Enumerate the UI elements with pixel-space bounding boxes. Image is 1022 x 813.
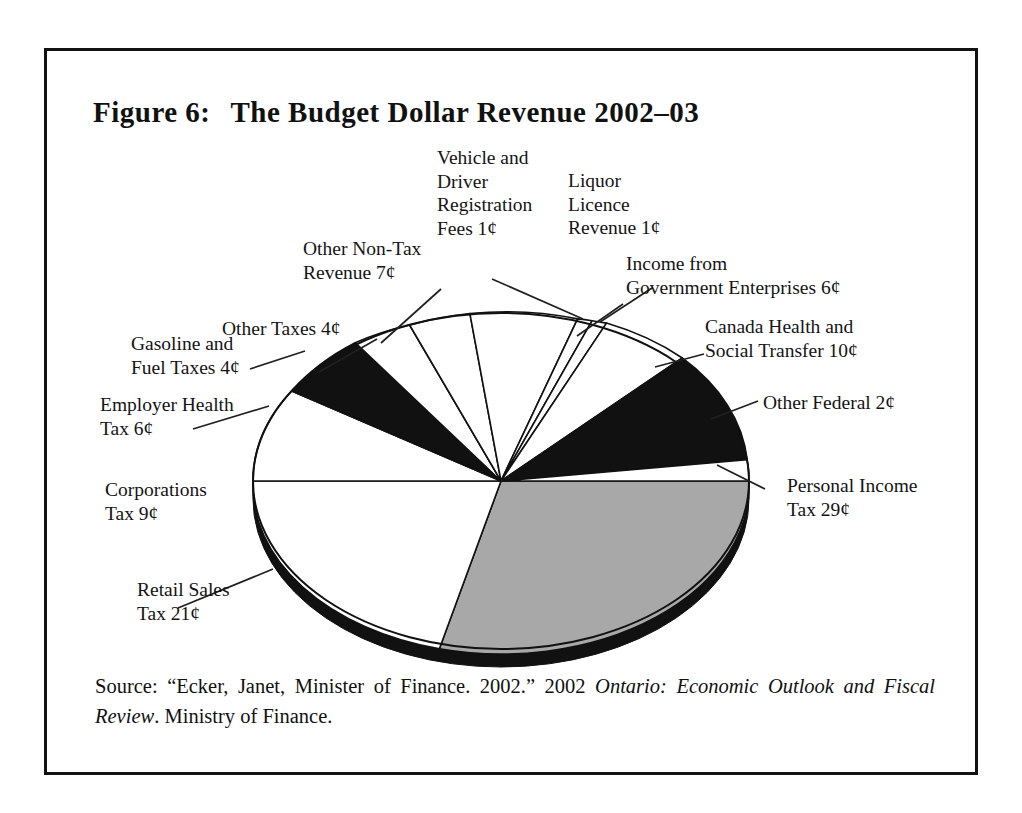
label-vehicle-driver-registration-fees: Vehicle and Driver Registration Fees 1¢ <box>437 146 532 240</box>
label-employer-health-tax: Employer Health Tax 6¢ <box>100 393 234 440</box>
label-other-taxes: Other Taxes 4¢ <box>222 317 341 341</box>
label-corporations-tax: Corporations Tax 9¢ <box>105 478 207 525</box>
source-prefix: Source: “Ecker, Janet, Minister of Finan… <box>95 675 595 697</box>
label-retail-sales-tax: Retail Sales Tax 21¢ <box>137 578 230 625</box>
pie-slices <box>253 312 749 654</box>
label-canada-health-social-transfer: Canada Health and Social Transfer 10¢ <box>705 315 858 362</box>
figure-frame: Figure 6:The Budget Dollar Revenue 2002–… <box>44 48 978 775</box>
label-personal-income-tax: Personal Income Tax 29¢ <box>787 474 918 521</box>
label-gasoline-and-fuel-taxes: Gasoline and Fuel Taxes 4¢ <box>131 332 240 379</box>
pie-chart: Vehicle and Driver Registration Fees 1¢ … <box>47 51 981 661</box>
source-suffix: . Ministry of Finance. <box>154 705 332 727</box>
label-other-non-tax-revenue: Other Non-Tax Revenue 7¢ <box>303 237 421 284</box>
label-income-from-government-enterprises: Income from Government Enterprises 6¢ <box>626 252 840 299</box>
source-note: Source: “Ecker, Janet, Minister of Finan… <box>95 671 935 731</box>
label-liquor-licence-revenue: Liquor Licence Revenue 1¢ <box>568 169 661 240</box>
leader-line-gasoline <box>250 351 305 369</box>
label-other-federal: Other Federal 2¢ <box>763 391 895 415</box>
